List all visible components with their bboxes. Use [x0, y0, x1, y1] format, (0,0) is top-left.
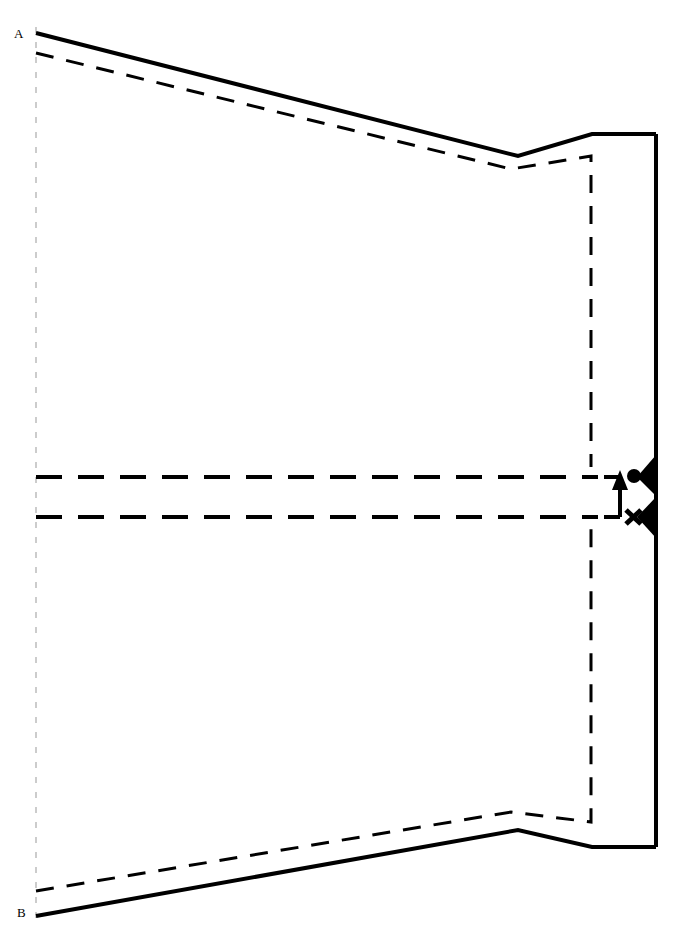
measure-arrow-head-icon	[612, 470, 628, 490]
point-a-label: A	[14, 27, 23, 40]
lower-solid-contour-line	[36, 830, 656, 916]
diagram-canvas	[0, 0, 675, 931]
nozzle-contour-diagram: A B	[0, 0, 675, 931]
lower-dashed-contour-line	[36, 527, 591, 891]
point-b-label: B	[17, 906, 26, 919]
upper-dashed-contour-line	[36, 53, 591, 467]
lower-wedge-icon	[637, 497, 656, 538]
upper-solid-contour-line	[36, 33, 656, 156]
circle-marker-icon	[627, 469, 641, 483]
